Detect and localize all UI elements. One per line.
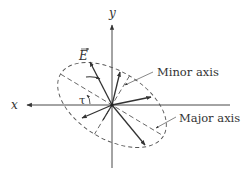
minor-axis-label: Minor axis <box>157 65 219 79</box>
major-axis-label: Major axis <box>179 111 240 125</box>
tau-label: τ <box>79 93 85 107</box>
e-vector <box>112 72 120 105</box>
e-label: E <box>78 49 89 63</box>
minor-axis-leader <box>125 72 153 85</box>
e-vector <box>112 105 145 145</box>
x-axis-label: x <box>11 98 18 112</box>
y-axis-label: y <box>108 6 116 20</box>
svg-text:E: E <box>78 49 88 63</box>
tau-arc-icon <box>87 95 90 104</box>
e-vector <box>112 97 151 105</box>
e-vector-main <box>90 62 112 105</box>
origin-point <box>110 103 113 106</box>
polarization-ellipse-diagram: x y E τ Minor axis Major axis <box>0 0 242 176</box>
